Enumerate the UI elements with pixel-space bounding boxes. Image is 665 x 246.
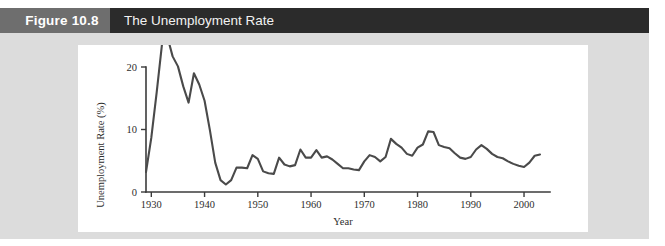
y-tick-label: 10 [127, 124, 138, 135]
y-tick-label: 0 [132, 187, 137, 198]
chart-tick-labels: 0102019301940195019601970198019902000 [127, 62, 535, 210]
x-tick-label: 1960 [301, 199, 322, 210]
chart-axes [146, 67, 550, 192]
y-tick-label: 20 [127, 62, 138, 73]
x-axis-title: Year [333, 216, 353, 227]
figure-header-bar: Figure 10.8 The Unemployment Rate [0, 8, 649, 33]
unemployment-data-line [146, 45, 540, 184]
x-tick-label: 1970 [354, 199, 375, 210]
x-tick-label: 1950 [247, 199, 268, 210]
x-tick-label: 2000 [514, 199, 535, 210]
unemployment-line-chart: 0102019301940195019601970198019902000 Un… [78, 45, 588, 232]
figure-number-label: Figure 10.8 [25, 13, 98, 28]
figure-number-block: Figure 10.8 [0, 8, 110, 33]
y-axis-title: Unemployment Rate (%) [95, 102, 107, 208]
figure-title-label: The Unemployment Rate [110, 8, 274, 33]
plot-panel: 0102019301940195019601970198019902000 Un… [78, 45, 588, 232]
chart-ticks [141, 67, 524, 197]
x-tick-label: 1990 [460, 199, 481, 210]
x-tick-label: 1930 [141, 199, 162, 210]
x-tick-label: 1940 [194, 199, 215, 210]
x-tick-label: 1980 [407, 199, 428, 210]
figure-container: Figure 10.8 The Unemployment Rate 010201… [0, 0, 665, 246]
